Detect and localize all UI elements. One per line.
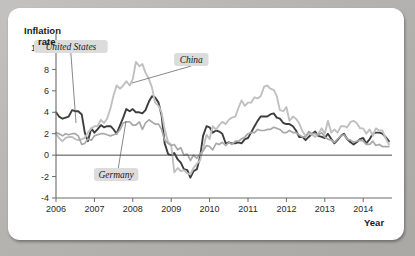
y-tick-label: 0 xyxy=(44,150,49,160)
y-axis-title-line1: Inflation xyxy=(24,25,61,36)
screenshot-root: 10%86420-2-42006200720082009201020112012… xyxy=(0,0,415,256)
y-tick-label: 6 xyxy=(44,86,49,96)
y-tick-label: 8 xyxy=(44,65,49,75)
y-tick-label: 2 xyxy=(44,129,49,139)
series-line-china xyxy=(56,62,389,174)
y-tick-label: 4 xyxy=(44,107,49,117)
x-tick-label: 2008 xyxy=(123,204,143,214)
annotation-leader-line xyxy=(132,66,191,83)
x-tick-label: 2014 xyxy=(353,204,373,214)
x-tick-label: 2013 xyxy=(315,204,335,214)
y-axis-title-line2: rate xyxy=(38,36,55,47)
y-tick-label: -2 xyxy=(41,172,49,182)
x-tick-label: 2007 xyxy=(84,204,104,214)
y-tick-label: -4 xyxy=(41,193,49,203)
figure-card: 10%86420-2-42006200720082009201020112012… xyxy=(8,8,404,240)
x-tick-label: 2011 xyxy=(238,204,257,214)
series-label-germany: Germany xyxy=(98,170,134,180)
x-tick-label: 2010 xyxy=(200,204,220,214)
x-tick-label: 2012 xyxy=(276,204,296,214)
series-layer xyxy=(56,62,389,178)
inflation-line-chart: 10%86420-2-42006200720082009201020112012… xyxy=(8,8,404,240)
x-axis-title: Year xyxy=(364,217,384,228)
series-annotations-layer: United StatesChinaGermany xyxy=(34,40,209,181)
x-tick-label: 2006 xyxy=(46,204,66,214)
series-label-china: China xyxy=(180,55,203,65)
x-tick-label: 2009 xyxy=(161,204,181,214)
